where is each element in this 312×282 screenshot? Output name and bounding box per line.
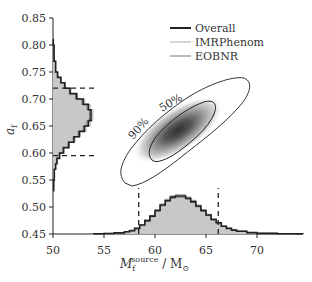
- y-tick-label: 0.65: [22, 120, 47, 133]
- x-tick-label: 65: [199, 244, 213, 257]
- x-tick-label: 55: [97, 244, 111, 257]
- y-axis-label: af: [3, 124, 19, 135]
- y-tick-label: 0.60: [22, 147, 47, 160]
- legend-label: IMRPhenom: [195, 36, 265, 49]
- y-tick-label: 0.75: [22, 66, 47, 79]
- legend-label: EOBNR: [195, 50, 239, 63]
- y-tick-label: 0.50: [22, 201, 47, 214]
- legend: OverallIMRPhenomEOBNR: [170, 22, 265, 63]
- x-tick-label: 70: [250, 244, 264, 257]
- mf-hist-fill: [94, 196, 303, 234]
- y-tick-label: 0.70: [22, 93, 47, 106]
- y-tick-label: 0.80: [22, 39, 47, 52]
- corner-plot: 0.450.500.550.600.650.700.750.800.855055…: [0, 0, 312, 282]
- legend-label: Overall: [195, 22, 236, 35]
- x-axis-label: Mfsource / M⊙: [119, 255, 189, 273]
- joint-density: 90% 50%: [121, 78, 250, 186]
- af-hist-fill: [53, 40, 91, 191]
- x-tick-label: 50: [46, 244, 60, 257]
- chart-svg: 0.450.500.550.600.650.700.750.800.855055…: [0, 0, 312, 282]
- y-tick-label: 0.85: [22, 12, 47, 25]
- y-tick-label: 0.45: [22, 228, 47, 241]
- y-tick-label: 0.55: [22, 174, 47, 187]
